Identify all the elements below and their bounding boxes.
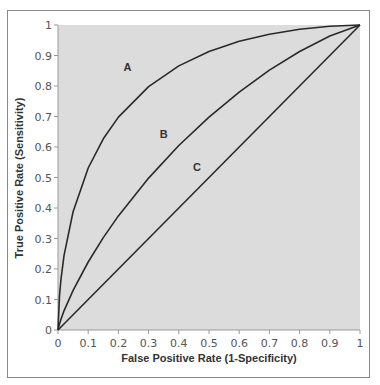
x-tick-label: 0.4 bbox=[170, 337, 188, 350]
y-tick-label: 0.6 bbox=[35, 141, 53, 154]
y-tick-label: 0.2 bbox=[35, 263, 53, 276]
x-tick-label: 0.2 bbox=[110, 337, 128, 350]
x-tick-label: 0.3 bbox=[140, 337, 158, 350]
x-tick-label: 0 bbox=[55, 337, 62, 350]
x-tick-label: 0.9 bbox=[321, 337, 339, 350]
y-tick-label: 0.5 bbox=[35, 172, 53, 185]
y-tick-label: 0.9 bbox=[35, 50, 53, 63]
x-axis-title: False Positive Rate (1-Specificity) bbox=[121, 352, 297, 364]
y-tick-label: 0.7 bbox=[35, 111, 53, 124]
y-tick-label: 1 bbox=[45, 19, 52, 32]
x-tick-label: 1 bbox=[357, 337, 364, 350]
x-tick-label: 0.5 bbox=[200, 337, 218, 350]
y-axis-title: True Positive Rate (Sensitivity) bbox=[13, 97, 25, 258]
y-tick-label: 0 bbox=[45, 324, 52, 337]
roc-chart: 00.10.20.30.40.50.60.70.80.9100.10.20.30… bbox=[0, 0, 380, 385]
y-tick-label: 0.1 bbox=[35, 294, 53, 307]
y-tick-label: 0.4 bbox=[35, 202, 53, 215]
curve-label-b: B bbox=[160, 128, 168, 140]
y-tick-label: 0.3 bbox=[35, 233, 53, 246]
x-tick-label: 0.7 bbox=[261, 337, 279, 350]
x-tick-label: 0.6 bbox=[230, 337, 248, 350]
curve-label-a: A bbox=[123, 61, 131, 73]
x-tick-label: 0.8 bbox=[291, 337, 309, 350]
x-tick-label: 0.1 bbox=[79, 337, 97, 350]
y-tick-label: 0.8 bbox=[35, 80, 53, 93]
curve-label-c: C bbox=[193, 161, 201, 173]
